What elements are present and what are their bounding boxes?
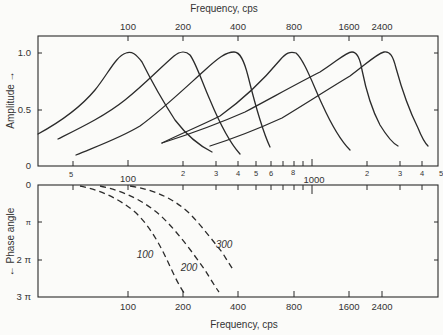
mid-tick-4b: 4 bbox=[420, 169, 424, 178]
mid-tick-2a: 2 bbox=[181, 169, 185, 178]
bottom-tick-200: 200 bbox=[175, 301, 191, 312]
mid-tick-5a: 5 bbox=[69, 170, 73, 179]
figure: Frequency, cps 100 200 400 800 1600 2400 bbox=[0, 0, 443, 335]
mid-tick-6: 6 bbox=[269, 169, 273, 178]
mid-tick-5c: 5 bbox=[439, 169, 443, 178]
phase-tick-pi: π bbox=[26, 218, 31, 227]
amp-tick-0: 0 bbox=[26, 160, 31, 171]
mid-tick-3a: 3 bbox=[214, 169, 218, 178]
amp-curve-100 bbox=[38, 52, 212, 152]
bottom-axis-title: Frequency, cps bbox=[210, 319, 278, 330]
bottom-tick-100: 100 bbox=[120, 301, 136, 312]
phase-curve-label-300: 300 bbox=[216, 239, 233, 250]
phase-axis-title: ← Phase angle bbox=[5, 207, 16, 276]
bottom-tick-2400: 2400 bbox=[371, 301, 392, 312]
mid-tick-2b: 2 bbox=[365, 169, 369, 178]
amp-curve-2400 bbox=[210, 52, 428, 146]
amp-curve-800 bbox=[162, 52, 350, 150]
amplitude-plot bbox=[38, 36, 438, 166]
amplitude-axis-title: Amplitude → bbox=[5, 71, 16, 128]
bottom-tick-1600: 1600 bbox=[338, 301, 359, 312]
amp-curve-200 bbox=[58, 52, 240, 154]
phase-tick-3pi: 3 π bbox=[17, 291, 32, 302]
phase-tick-2pi: 2 π bbox=[17, 254, 32, 265]
bottom-tick-400: 400 bbox=[230, 301, 246, 312]
top-tick-1600: 1600 bbox=[338, 21, 359, 32]
mid-tick-1000: 1000 bbox=[303, 174, 324, 185]
bottom-tick-800: 800 bbox=[286, 301, 302, 312]
top-tick-labels: 100 200 400 800 1600 2400 bbox=[120, 21, 393, 32]
bottom-tick-labels: 100 200 400 800 1600 2400 bbox=[120, 301, 393, 312]
top-tick-400: 400 bbox=[230, 21, 246, 32]
top-tick-100: 100 bbox=[120, 21, 136, 32]
phase-curve-100 bbox=[80, 186, 185, 294]
top-tick-200: 200 bbox=[175, 21, 191, 32]
amp-tick-05: 0.5 bbox=[18, 104, 31, 115]
top-axis-title: Frequency, cps bbox=[190, 3, 258, 14]
mid-tick-100: 100 bbox=[120, 173, 136, 184]
phase-curve-label-200: 200 bbox=[180, 262, 198, 273]
mid-tick-4a: 4 bbox=[236, 169, 240, 178]
mid-tick-5b: 5 bbox=[254, 169, 258, 178]
top-tick-800: 800 bbox=[286, 21, 302, 32]
amp-tick-1: 1.0 bbox=[18, 47, 31, 58]
mid-tick-labels: 5 2 3 4 5 6 8 2 3 4 5 100 1000 bbox=[69, 168, 443, 185]
phase-curve-200 bbox=[100, 186, 219, 292]
phase-tick-0: 0 bbox=[26, 179, 31, 190]
mid-tick-8: 8 bbox=[291, 168, 295, 177]
phase-plot bbox=[38, 185, 438, 297]
phase-curve-label-100: 100 bbox=[137, 249, 154, 260]
mid-tick-3b: 3 bbox=[398, 169, 402, 178]
phase-frame bbox=[38, 185, 438, 297]
top-tick-2400: 2400 bbox=[371, 21, 392, 32]
